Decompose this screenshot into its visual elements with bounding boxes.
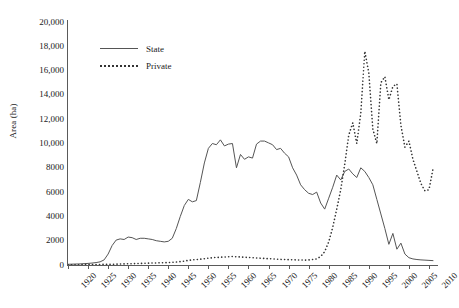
x-axis-tickmark-1970 xyxy=(269,265,270,269)
legend-label-private: Private xyxy=(146,61,172,71)
x-axis-tick-1920: 1920 xyxy=(79,271,98,290)
x-axis-tick-2000: 2000 xyxy=(400,271,419,290)
y-axis-tick-18000: 18,000 xyxy=(16,42,64,51)
x-axis-tick-1925: 1925 xyxy=(99,271,118,290)
x-axis-tick-1945: 1945 xyxy=(180,271,199,290)
x-axis-tick-1980: 1980 xyxy=(320,271,339,290)
y-axis-tick-12000: 12,000 xyxy=(16,115,64,124)
legend-swatch-private-dotted-icon xyxy=(98,61,140,70)
x-axis-tickmark-1965 xyxy=(248,265,249,269)
y-axis-tick-4000: 4000 xyxy=(16,212,64,221)
x-axis-tick-1955: 1955 xyxy=(220,271,239,290)
legend-item-private: Private xyxy=(98,57,172,74)
y-axis-tick-20000: 20,000 xyxy=(16,18,64,27)
x-axis-tickmark-2000 xyxy=(389,265,390,269)
x-axis-tickmark-1940 xyxy=(148,265,149,269)
x-axis-tick-1965: 1965 xyxy=(260,271,279,290)
x-axis-tick-2010: 2010 xyxy=(440,271,459,290)
x-axis-tickmark-1975 xyxy=(289,265,290,269)
x-axis-tickmark-1920 xyxy=(68,265,69,269)
x-axis-tick-2005: 2005 xyxy=(420,271,439,290)
x-axis-tick-1950: 1950 xyxy=(200,271,219,290)
x-axis-tickmark-1950 xyxy=(188,265,189,269)
x-axis-tickmark-1985 xyxy=(329,265,330,269)
x-axis-tickmark-1930 xyxy=(108,265,109,269)
x-axis-tick-1930: 1930 xyxy=(119,271,138,290)
x-axis-tickmark-2010 xyxy=(429,265,430,269)
y-axis-tick-16000: 16,000 xyxy=(16,66,64,75)
x-axis-tickmark-1960 xyxy=(228,265,229,269)
y-axis-tick-8000: 8000 xyxy=(16,163,64,172)
x-axis-tick-1970: 1970 xyxy=(280,271,299,290)
legend: State Private xyxy=(98,40,172,74)
x-axis-tickmark-1955 xyxy=(208,265,209,269)
y-axis-tick-labels: 0200040006000800010,00012,00014,00016,00… xyxy=(12,0,64,308)
x-axis-tickmark-2005 xyxy=(409,265,410,269)
x-axis-tick-1985: 1985 xyxy=(340,271,359,290)
y-axis-tick-14000: 14,000 xyxy=(16,90,64,99)
x-axis-tick-1960: 1960 xyxy=(240,271,259,290)
x-axis-tick-1990: 1990 xyxy=(360,271,379,290)
legend-label-state: State xyxy=(146,44,164,54)
y-axis-tick-2000: 2000 xyxy=(16,236,64,245)
x-axis-tick-1935: 1935 xyxy=(139,271,158,290)
series-line-state xyxy=(68,140,433,264)
legend-item-state: State xyxy=(98,40,172,57)
x-axis-tickmark-1935 xyxy=(128,265,129,269)
x-axis-tickmark-1990 xyxy=(349,265,350,269)
y-axis-tick-10000: 10,000 xyxy=(16,139,64,148)
y-axis-tick-6000: 6000 xyxy=(16,188,64,197)
x-axis-tickmark-1925 xyxy=(88,265,89,269)
x-axis-tickmark-1995 xyxy=(369,265,370,269)
x-axis-tick-labels: 1920192519301935194019451950195519601965… xyxy=(0,265,450,308)
x-axis-tickmark-1945 xyxy=(168,265,169,269)
x-axis-tick-1940: 1940 xyxy=(159,271,178,290)
x-axis-tick-1995: 1995 xyxy=(380,271,399,290)
x-axis-tick-1975: 1975 xyxy=(300,271,319,290)
legend-swatch-state-line-icon xyxy=(98,44,140,53)
x-axis-tickmark-1980 xyxy=(309,265,310,269)
